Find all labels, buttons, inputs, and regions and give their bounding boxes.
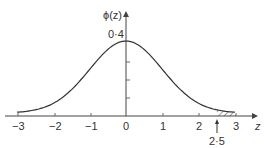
annotation-label: 2·5 [209,135,225,147]
normal-distribution-chart: ϕ(z) 0·4 z −3 −2 −1 0 1 2 3 2·5 [0,0,266,148]
svg-text:0: 0 [123,120,129,132]
x-tick-labels: −3 −2 −1 0 1 2 3 [12,120,239,132]
svg-text:3: 3 [233,120,239,132]
annotation-arrow-icon [215,119,219,124]
svg-text:−2: −2 [49,120,62,132]
svg-text:−1: −1 [85,120,98,132]
x-axis-arrow-icon [252,113,258,119]
y-tick-label-0-4: 0·4 [108,28,124,40]
y-axis-label: ϕ(z) [103,9,122,21]
y-ticks [126,62,130,98]
svg-text:2: 2 [196,120,202,132]
y-axis-arrow-icon [123,11,129,17]
svg-text:1: 1 [160,120,166,132]
x-axis-label: z [254,120,261,132]
svg-text:−3: −3 [12,120,25,132]
